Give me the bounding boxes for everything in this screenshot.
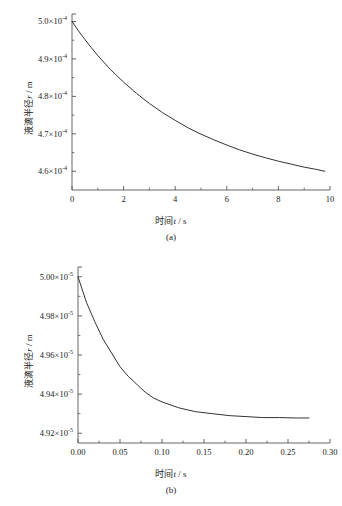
- data-series-line: [78, 277, 309, 418]
- y-tick-label: 5.00×10-5: [40, 272, 73, 282]
- x-tick-label: 0.30: [323, 447, 338, 457]
- figure-caption-a: (a): [0, 232, 342, 242]
- x-tick-label: 8: [276, 194, 280, 204]
- y-tick-label: 4.8×10-4: [38, 91, 67, 101]
- x-tick-label: 0.05: [113, 447, 128, 457]
- figure-caption-b: (b): [0, 485, 342, 495]
- x-tick-label: 6: [225, 194, 229, 204]
- x-tick-label: 0.15: [197, 447, 212, 457]
- y-tick-label: 4.9×10-4: [38, 54, 67, 64]
- chart-canvas-a: [0, 0, 342, 215]
- y-tick-label: 4.94×10-5: [40, 389, 73, 399]
- x-tick-label: 4: [173, 194, 177, 204]
- x-tick-label: 0.25: [281, 447, 296, 457]
- figure-b: 液滴半径r / m 5.00×10-54.98×10-54.96×10-54.9…: [0, 253, 342, 506]
- y-axis-label-b: 液滴半径r / m: [22, 334, 35, 388]
- x-axis-label-b: 时间t / s: [0, 467, 342, 480]
- plot-area-b: 液滴半径r / m 5.00×10-54.98×10-54.96×10-54.9…: [0, 253, 342, 468]
- x-tick-label: 0.20: [239, 447, 254, 457]
- x-axis-label-a: 时间t / s: [0, 214, 342, 227]
- plot-area-a: 液滴半径r / m 5.0×10-44.9×10-44.8×10-44.7×10…: [0, 0, 342, 215]
- x-tick-label: 2: [121, 194, 125, 204]
- x-tick-label: 10: [326, 194, 335, 204]
- data-series-line: [72, 21, 325, 171]
- x-tick-label: 0: [70, 194, 74, 204]
- y-tick-label: 4.7×10-4: [38, 129, 67, 139]
- y-tick-label: 4.96×10-5: [40, 350, 73, 360]
- figure-a: 液滴半径r / m 5.0×10-44.9×10-44.8×10-44.7×10…: [0, 0, 342, 253]
- figure-page: 液滴半径r / m 5.0×10-44.9×10-44.8×10-44.7×10…: [0, 0, 342, 506]
- y-tick-label: 5.0×10-4: [38, 16, 67, 26]
- y-axis-label-a: 液滴半径r / m: [22, 81, 35, 135]
- x-tick-label: 0.00: [71, 447, 86, 457]
- y-tick-label: 4.6×10-4: [38, 166, 67, 176]
- x-tick-label: 0.10: [155, 447, 170, 457]
- y-tick-label: 4.98×10-5: [40, 311, 73, 321]
- y-tick-label: 4.92×10-5: [40, 428, 73, 438]
